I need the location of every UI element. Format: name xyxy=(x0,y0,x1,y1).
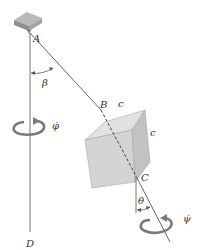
label-A: A xyxy=(32,33,40,44)
label-theta: θ xyxy=(138,195,144,206)
label-D: D xyxy=(25,238,34,249)
label-beta: β xyxy=(41,77,48,88)
ceiling-support-block xyxy=(14,12,42,34)
phi-dot-rotation-arrow-icon xyxy=(14,117,45,135)
psi-dot-rotation-arrow-icon xyxy=(141,214,172,233)
label-C: C xyxy=(141,172,149,183)
label-edge-c-side: c xyxy=(150,127,156,138)
rotating-cube-diagram: A β B c c C θ φ̇ ψ̇ D xyxy=(0,0,202,250)
label-phi-dot: φ̇ xyxy=(52,120,59,131)
label-psi-dot: ψ̇ xyxy=(183,213,191,224)
label-B: B xyxy=(99,99,107,110)
label-edge-c-top: c xyxy=(118,98,124,109)
rod-AB xyxy=(30,33,101,110)
